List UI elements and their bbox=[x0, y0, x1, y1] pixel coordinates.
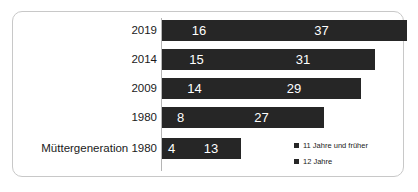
bar-segment-12-jahre[interactable]: 29 bbox=[227, 78, 361, 99]
bar-value-label: 29 bbox=[287, 78, 301, 99]
legend-swatch-icon bbox=[294, 143, 299, 148]
bar-segment-11-jahre-und-frueher[interactable]: 14 bbox=[162, 78, 227, 99]
bar-value-label: 37 bbox=[314, 20, 328, 41]
chart-row: 2014 15 31 bbox=[13, 49, 405, 70]
legend-item[interactable]: 11 Jahre und früher bbox=[294, 138, 402, 153]
legend-swatch-icon bbox=[294, 159, 299, 164]
category-label: Müttergeneration 1980 bbox=[41, 138, 157, 159]
category-label: 2009 bbox=[131, 78, 157, 99]
stacked-bar[interactable]: 14 29 bbox=[162, 78, 361, 99]
chart-row: 2009 14 29 bbox=[13, 78, 405, 99]
bar-value-label: 27 bbox=[254, 107, 268, 128]
bar-segment-12-jahre[interactable]: 27 bbox=[199, 107, 324, 128]
stacked-bar[interactable]: 4 13 bbox=[162, 138, 241, 159]
bar-value-label: 4 bbox=[168, 138, 175, 159]
bar-value-label: 15 bbox=[189, 49, 203, 70]
bar-value-label: 31 bbox=[296, 49, 310, 70]
bar-value-label: 8 bbox=[177, 107, 184, 128]
bar-segment-11-jahre-und-frueher[interactable]: 8 bbox=[162, 107, 199, 128]
bar-segment-12-jahre[interactable]: 31 bbox=[231, 49, 375, 70]
chart-legend: 11 Jahre und früher 12 Jahre bbox=[294, 138, 402, 170]
chart-row: 2019 16 37 bbox=[13, 20, 405, 41]
bar-segment-12-jahre[interactable]: 37 bbox=[236, 20, 407, 41]
stacked-bar[interactable]: 8 27 bbox=[162, 107, 324, 128]
bar-segment-12-jahre[interactable]: 13 bbox=[181, 138, 241, 159]
category-label: 2019 bbox=[131, 20, 157, 41]
bar-segment-11-jahre-und-frueher[interactable]: 15 bbox=[162, 49, 231, 70]
bar-segment-11-jahre-und-frueher[interactable]: 16 bbox=[162, 20, 236, 41]
bar-value-label: 14 bbox=[187, 78, 201, 99]
bar-value-label: 16 bbox=[192, 20, 206, 41]
chart-row: 1980 8 27 bbox=[13, 107, 405, 128]
legend-label: 11 Jahre und früher bbox=[303, 141, 368, 150]
category-label: 2014 bbox=[131, 49, 157, 70]
bar-segment-11-jahre-und-frueher[interactable]: 4 bbox=[162, 138, 181, 159]
bar-value-label: 13 bbox=[204, 138, 218, 159]
chart-card: 2019 16 37 2014 15 31 bbox=[12, 11, 404, 177]
chart-plot-area: 2019 16 37 2014 15 31 bbox=[13, 12, 405, 178]
stacked-bar[interactable]: 16 37 bbox=[162, 20, 407, 41]
legend-item[interactable]: 12 Jahre bbox=[294, 154, 402, 169]
legend-label: 12 Jahre bbox=[303, 157, 332, 166]
category-label: 1980 bbox=[131, 107, 157, 128]
stacked-bar[interactable]: 15 31 bbox=[162, 49, 375, 70]
